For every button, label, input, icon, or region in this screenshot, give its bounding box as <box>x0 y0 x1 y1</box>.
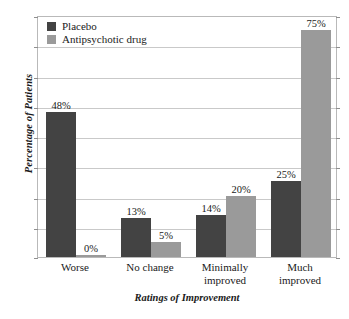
x-axis-tick-labels: WorseNo changeMinimallyimprovedMuchimpro… <box>37 261 337 295</box>
axis-tick <box>336 108 340 109</box>
legend-swatch-icon <box>47 22 56 31</box>
axis-tick <box>336 199 340 200</box>
bar[interactable]: 48% <box>46 112 76 257</box>
axis-tick <box>336 138 340 139</box>
axis-tick <box>336 258 340 259</box>
bar[interactable]: 5% <box>151 242 181 257</box>
bar-value-label: 75% <box>306 19 325 30</box>
bar-value-label: 0% <box>84 244 98 255</box>
bar[interactable]: 13% <box>121 218 151 257</box>
bar-value-label: 48% <box>51 101 70 112</box>
legend-item-placebo: Placebo <box>47 21 147 32</box>
x-axis-tick-label-line: Minimally <box>188 261 263 274</box>
axis-tick <box>336 229 340 230</box>
x-axis-tick-label: Muchimproved <box>263 261 338 286</box>
legend-label: Antipsychotic drug <box>62 34 147 45</box>
x-axis-tick-label: Minimallyimproved <box>188 261 263 286</box>
bar-value-label: 20% <box>231 185 250 196</box>
bar[interactable]: 25% <box>271 181 301 257</box>
legend-label: Placebo <box>62 21 97 32</box>
y-axis-title: Percentage of Patients <box>23 44 34 204</box>
bar-chart: Percentage of Patients 48%0%13%5%14%20%2… <box>0 0 349 319</box>
bar-group: 14%20% <box>196 17 256 257</box>
bar-value-label: 5% <box>159 231 173 242</box>
bar[interactable]: 14% <box>196 215 226 257</box>
x-axis-tick-label-line: Much <box>263 261 338 274</box>
bar-group: 13%5% <box>121 17 181 257</box>
axis-tick <box>336 168 340 169</box>
bar[interactable]: 20% <box>226 196 256 257</box>
legend-swatch-icon <box>47 35 56 44</box>
axis-tick <box>336 78 340 79</box>
axis-tick <box>336 17 340 18</box>
x-axis-tick-label-line: improved <box>188 274 263 287</box>
bar-group: 48%0% <box>46 17 106 257</box>
x-axis-tick-label-line: improved <box>263 274 338 287</box>
bar-value-label: 13% <box>126 207 145 218</box>
x-axis-title: Ratings of Improvement <box>37 292 337 303</box>
legend-item-antipsychotic-drug: Antipsychotic drug <box>47 34 147 45</box>
x-axis-tick-label-line: Worse <box>38 261 113 274</box>
x-axis-tick-label: No change <box>113 261 188 274</box>
legend: Placebo Antipsychotic drug <box>47 21 147 45</box>
bar-value-label: 25% <box>276 170 295 181</box>
bar[interactable]: 0% <box>76 255 106 257</box>
plot-area: 48%0%13%5%14%20%25%75% Placebo Antipsych… <box>37 16 337 258</box>
x-axis-tick-label: Worse <box>38 261 113 274</box>
bar[interactable]: 75% <box>301 30 331 257</box>
bar-value-label: 14% <box>201 204 220 215</box>
bars-layer: 48%0%13%5%14%20%25%75% <box>38 17 336 257</box>
axis-tick <box>34 258 38 259</box>
axis-tick <box>336 47 340 48</box>
bar-group: 25%75% <box>271 17 331 257</box>
x-axis-tick-label-line: No change <box>113 261 188 274</box>
